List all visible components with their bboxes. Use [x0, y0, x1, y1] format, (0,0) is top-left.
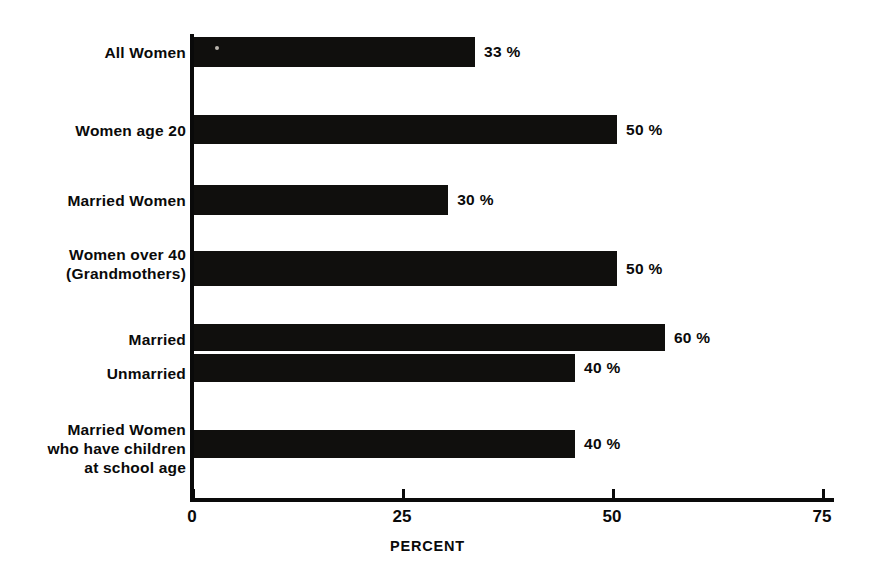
- x-tick-50: [612, 489, 615, 499]
- bar-value-married-women: 30 %: [457, 192, 494, 208]
- x-tick-0: [192, 489, 195, 499]
- x-tick-25: [402, 489, 405, 499]
- category-label-unmarried: Unmarried: [107, 364, 186, 383]
- bar-women-over-40: [192, 251, 617, 286]
- category-label-married-women-children: Married Women who have children at schoo…: [47, 420, 186, 477]
- bar-married: [192, 324, 665, 351]
- bar-value-women-over-40: 50 %: [626, 261, 663, 277]
- category-label-women-age-20: Women age 20: [75, 121, 186, 140]
- x-tick-label-25: 25: [393, 508, 412, 525]
- bar-value-all-women: 33 %: [484, 44, 521, 60]
- bar-married-women-children: [192, 430, 575, 458]
- bar-unmarried: [192, 354, 575, 382]
- bar-value-women-age-20: 50 %: [626, 122, 663, 138]
- x-axis-title: PERCENT: [390, 538, 465, 554]
- bar-chart: All Women Women age 20 Married Women Wom…: [0, 0, 880, 588]
- x-axis-line: [190, 498, 834, 502]
- plot-area: 33 % 50 % 30 % 50 % 60 % 40 % 40 %: [192, 28, 832, 500]
- bar-value-married-women-children: 40 %: [584, 436, 621, 452]
- x-tick-label-50: 50: [603, 508, 622, 525]
- bar-married-women: [192, 185, 448, 215]
- bar-value-married: 60 %: [674, 330, 711, 346]
- category-label-married-women: Married Women: [67, 191, 186, 210]
- bar-women-age-20: [192, 115, 617, 144]
- y-axis-line: [190, 34, 194, 501]
- x-tick-75: [822, 489, 825, 499]
- bar-value-unmarried: 40 %: [584, 360, 621, 376]
- category-label-all-women: All Women: [104, 43, 186, 62]
- bar-all-women: [192, 37, 475, 67]
- print-speck-artifact: [215, 46, 219, 50]
- x-tick-label-0: 0: [187, 508, 196, 525]
- x-tick-label-75: 75: [813, 508, 832, 525]
- category-label-women-over-40: Women over 40 (Grandmothers): [66, 245, 186, 283]
- category-label-married: Married: [129, 330, 186, 349]
